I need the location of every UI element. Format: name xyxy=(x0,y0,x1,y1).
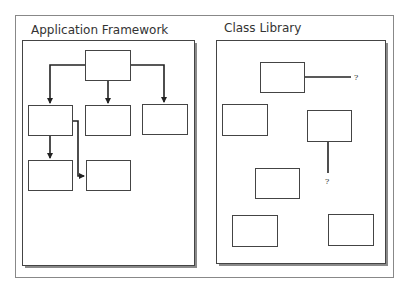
framework-box-child-2 xyxy=(86,106,131,136)
framework-vs-library-diagram: Application Framework Class Library xyxy=(0,0,406,292)
unknown-target-label: ? xyxy=(325,177,329,186)
library-class-b xyxy=(223,105,268,136)
unknown-target-label: ? xyxy=(354,73,358,82)
panel-application-framework xyxy=(23,41,198,269)
panel-title-framework: Application Framework xyxy=(31,23,168,37)
framework-box-grandchild-1 xyxy=(29,161,73,191)
library-class-f xyxy=(329,215,374,246)
framework-box-child-3 xyxy=(143,105,188,135)
library-class-a xyxy=(261,63,305,93)
framework-box-child-1 xyxy=(29,106,73,136)
framework-box-root xyxy=(86,51,131,81)
library-class-e xyxy=(233,216,278,247)
library-class-c xyxy=(308,111,352,142)
library-class-d xyxy=(256,169,300,199)
panel-title-library: Class Library xyxy=(224,21,301,35)
panel-class-library: ? ? xyxy=(217,41,389,267)
framework-box-grandchild-2 xyxy=(87,161,131,191)
